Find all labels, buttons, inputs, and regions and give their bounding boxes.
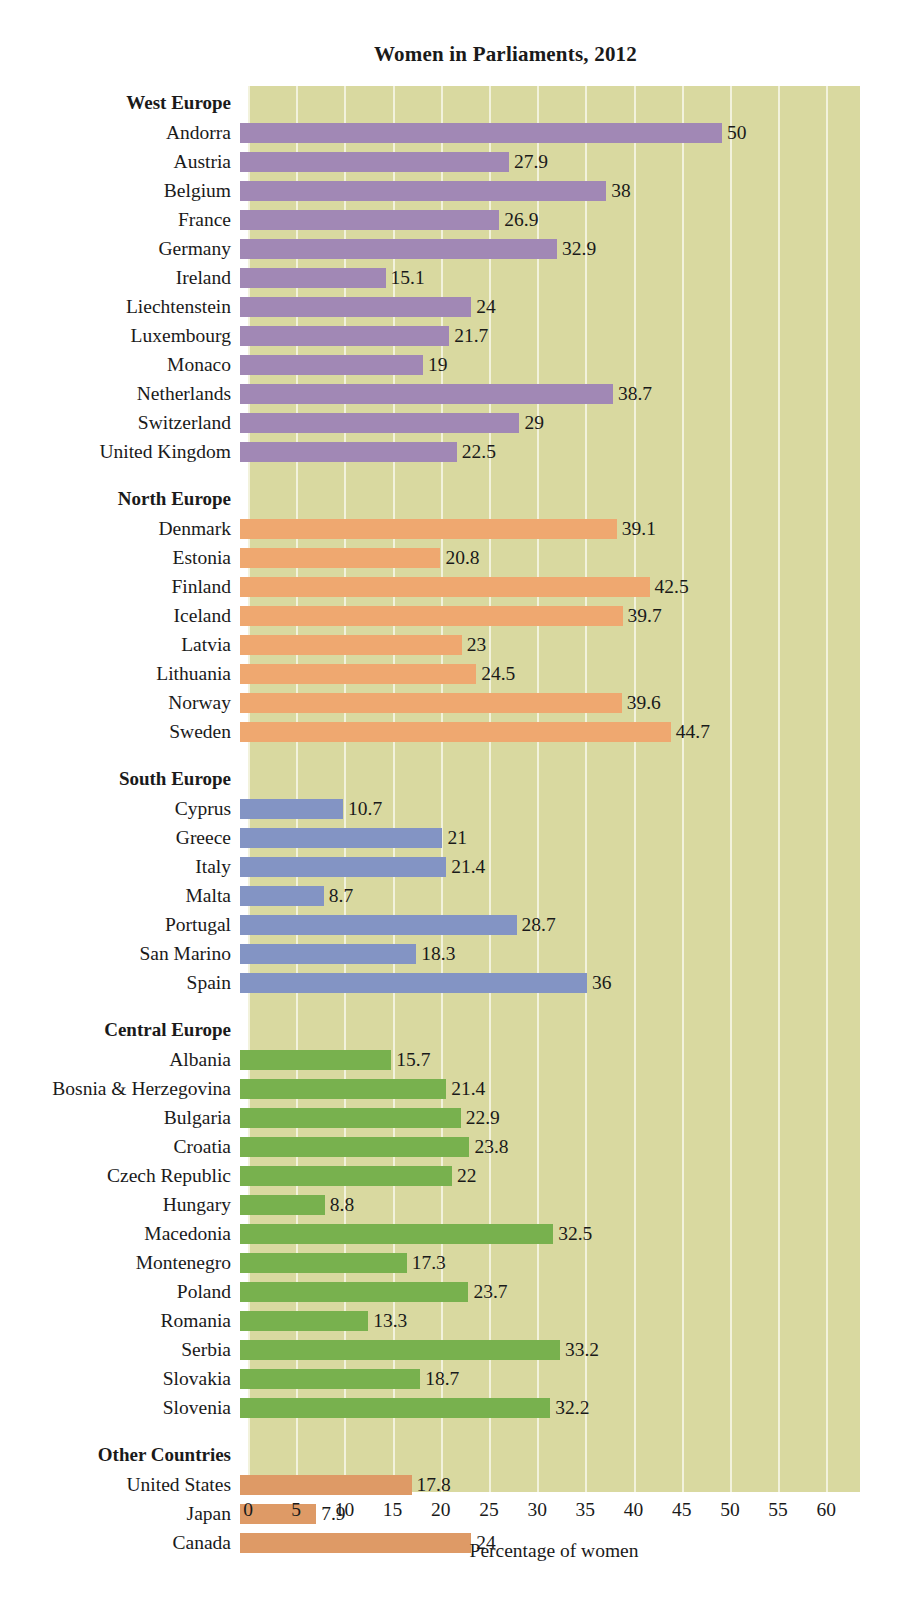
category-label: Croatia bbox=[0, 1137, 240, 1157]
bar[interactable] bbox=[240, 268, 386, 288]
category-label: Czech Republic bbox=[0, 1166, 240, 1186]
bar-row[interactable]: Macedonia32.5 bbox=[0, 1219, 911, 1248]
bar-row[interactable]: Portugal28.7 bbox=[0, 910, 911, 939]
bar[interactable] bbox=[240, 693, 622, 713]
bar-row[interactable]: Serbia33.2 bbox=[0, 1335, 911, 1364]
bar[interactable] bbox=[240, 413, 519, 433]
bar-row[interactable]: Lithuania24.5 bbox=[0, 659, 911, 688]
bar-row[interactable]: Luxembourg21.7 bbox=[0, 321, 911, 350]
bar[interactable] bbox=[240, 326, 449, 346]
bar-row[interactable]: Italy21.4 bbox=[0, 852, 911, 881]
category-label: Lithuania bbox=[0, 664, 240, 684]
bar-row[interactable]: Latvia23 bbox=[0, 630, 911, 659]
bar-row[interactable]: Austria27.9 bbox=[0, 147, 911, 176]
bar[interactable] bbox=[240, 1166, 452, 1186]
bar-row[interactable]: Switzerland29 bbox=[0, 408, 911, 437]
bar-row[interactable]: Slovakia18.7 bbox=[0, 1364, 911, 1393]
bar-row[interactable]: Ireland15.1 bbox=[0, 263, 911, 292]
bar[interactable] bbox=[240, 1195, 325, 1215]
bar[interactable] bbox=[240, 210, 499, 230]
bar[interactable] bbox=[240, 152, 509, 172]
bar[interactable] bbox=[240, 944, 416, 964]
bar[interactable] bbox=[240, 1282, 468, 1302]
category-label: Iceland bbox=[0, 606, 240, 626]
bar-row[interactable]: Sweden44.7 bbox=[0, 717, 911, 746]
bar[interactable] bbox=[240, 1137, 469, 1157]
bar-row[interactable]: Malta8.7 bbox=[0, 881, 911, 910]
bar[interactable] bbox=[240, 1475, 412, 1495]
bar[interactable] bbox=[240, 1079, 446, 1099]
bar[interactable] bbox=[240, 123, 722, 143]
bar[interactable] bbox=[240, 915, 517, 935]
bar[interactable] bbox=[240, 181, 606, 201]
bar[interactable] bbox=[240, 828, 442, 848]
bar[interactable] bbox=[240, 297, 471, 317]
bar-row[interactable]: United States17.8 bbox=[0, 1470, 911, 1499]
bar[interactable] bbox=[240, 1369, 420, 1389]
bar[interactable] bbox=[240, 1340, 560, 1360]
bar[interactable] bbox=[240, 857, 446, 877]
bar-row[interactable]: Estonia20.8 bbox=[0, 543, 911, 572]
group-header-row: West Europe bbox=[0, 86, 911, 118]
category-label: Malta bbox=[0, 886, 240, 906]
bar[interactable] bbox=[240, 1050, 391, 1070]
bar[interactable] bbox=[240, 664, 476, 684]
bar-value-label: 39.7 bbox=[623, 606, 662, 626]
bar[interactable] bbox=[240, 1398, 550, 1418]
bar-value-label: 23.8 bbox=[469, 1137, 508, 1157]
bar-value-label: 21.4 bbox=[446, 1079, 485, 1099]
bar[interactable] bbox=[240, 635, 462, 655]
bar-row[interactable]: Czech Republic22 bbox=[0, 1161, 911, 1190]
x-tick-label: 60 bbox=[817, 1500, 837, 1520]
bar[interactable] bbox=[240, 577, 650, 597]
bar-row[interactable]: Andorra50 bbox=[0, 118, 911, 147]
bar-row[interactable]: Bulgaria22.9 bbox=[0, 1103, 911, 1132]
bar[interactable] bbox=[240, 973, 587, 993]
bar-row[interactable]: Spain36 bbox=[0, 968, 911, 997]
bar-row[interactable]: Croatia23.8 bbox=[0, 1132, 911, 1161]
bar-row[interactable]: United Kingdom22.5 bbox=[0, 437, 911, 466]
bar-row[interactable]: Liechtenstein24 bbox=[0, 292, 911, 321]
bar-row[interactable]: Bosnia & Herzegovina21.4 bbox=[0, 1074, 911, 1103]
bar-track: 22.9 bbox=[240, 1103, 911, 1132]
bar[interactable] bbox=[240, 799, 343, 819]
bar[interactable] bbox=[240, 1311, 368, 1331]
bar[interactable] bbox=[240, 548, 440, 568]
bar-row[interactable]: Belgium38 bbox=[0, 176, 911, 205]
bar[interactable] bbox=[240, 355, 423, 375]
bar-row[interactable]: San Marino18.3 bbox=[0, 939, 911, 968]
bar[interactable] bbox=[240, 1253, 407, 1273]
bar-row[interactable]: Iceland39.7 bbox=[0, 601, 911, 630]
bar[interactable] bbox=[240, 1108, 461, 1128]
bar-row[interactable]: Albania15.7 bbox=[0, 1045, 911, 1074]
bar-row[interactable]: Poland23.7 bbox=[0, 1277, 911, 1306]
bar[interactable] bbox=[240, 239, 557, 259]
bar-row[interactable]: Norway39.6 bbox=[0, 688, 911, 717]
bar-row[interactable]: Denmark39.1 bbox=[0, 514, 911, 543]
bar-track: 24.5 bbox=[240, 659, 911, 688]
bar-row[interactable]: Greece21 bbox=[0, 823, 911, 852]
bar[interactable] bbox=[240, 519, 617, 539]
bar-row[interactable]: Cyprus10.7 bbox=[0, 794, 911, 823]
bar-row[interactable]: Romania13.3 bbox=[0, 1306, 911, 1335]
bar-row[interactable]: Finland42.5 bbox=[0, 572, 911, 601]
bar[interactable] bbox=[240, 442, 457, 462]
bar[interactable] bbox=[240, 1224, 553, 1244]
bar-row[interactable]: Slovenia32.2 bbox=[0, 1393, 911, 1422]
category-label: Slovenia bbox=[0, 1398, 240, 1418]
bar-row[interactable]: Montenegro17.3 bbox=[0, 1248, 911, 1277]
bar[interactable] bbox=[240, 384, 613, 404]
bar-row[interactable]: Hungary8.8 bbox=[0, 1190, 911, 1219]
bar-value-label: 21.7 bbox=[449, 326, 488, 346]
bar-track: 39.1 bbox=[240, 514, 911, 543]
chart-title: Women in Parliaments, 2012 bbox=[0, 42, 911, 67]
bar-row[interactable]: Germany32.9 bbox=[0, 234, 911, 263]
group-header-bar-area bbox=[240, 482, 911, 514]
bar-row[interactable]: Monaco19 bbox=[0, 350, 911, 379]
bar[interactable] bbox=[240, 886, 324, 906]
bar-row[interactable]: Netherlands38.7 bbox=[0, 379, 911, 408]
bar[interactable] bbox=[240, 722, 671, 742]
category-label: Bulgaria bbox=[0, 1108, 240, 1128]
bar[interactable] bbox=[240, 606, 623, 626]
bar-row[interactable]: France26.9 bbox=[0, 205, 911, 234]
